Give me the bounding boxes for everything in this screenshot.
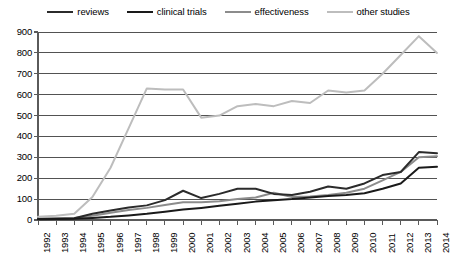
x-tick-label: 1995 — [96, 233, 106, 253]
x-tick-label: 2005 — [278, 233, 288, 253]
plot-svg — [0, 0, 457, 266]
x-tick-label: 2001 — [205, 233, 215, 253]
y-tick-label: 300 — [2, 152, 32, 162]
x-tick-label: 2009 — [350, 233, 360, 253]
gridlines — [38, 32, 437, 220]
x-tick-label: 1997 — [133, 233, 143, 253]
y-tick-label: 0 — [2, 215, 32, 225]
x-tick-label: 1993 — [60, 233, 70, 253]
x-tick-label: 1998 — [151, 233, 161, 253]
series-line-clinical-trials — [38, 167, 437, 219]
x-tick-label: 2008 — [332, 233, 342, 253]
y-tick-label: 600 — [2, 90, 32, 100]
y-tick-label: 200 — [2, 173, 32, 183]
x-tick-label: 2004 — [260, 233, 270, 253]
x-tick-label: 2007 — [314, 233, 324, 253]
x-tick-label: 2002 — [223, 233, 233, 253]
x-tick-label: 2012 — [405, 233, 415, 253]
x-tick-label: 1996 — [115, 233, 125, 253]
y-tick-label: 400 — [2, 131, 32, 141]
x-tick-label: 2011 — [387, 233, 397, 253]
y-tick-label: 900 — [2, 27, 32, 37]
line-chart: reviewsclinical trialseffectivenessother… — [0, 0, 457, 266]
series-line-reviews — [38, 152, 437, 219]
y-tick-label: 500 — [2, 111, 32, 121]
x-tick-label: 2006 — [296, 233, 306, 253]
y-tick-label: 800 — [2, 48, 32, 58]
x-tick-label: 1999 — [169, 233, 179, 253]
x-tick-label: 2003 — [242, 233, 252, 253]
y-tick-label: 100 — [2, 194, 32, 204]
x-tick-label: 2013 — [423, 233, 433, 253]
series-lines — [38, 36, 437, 219]
x-tick-label: 1992 — [42, 233, 52, 253]
x-tick-label: 2000 — [187, 233, 197, 253]
x-tick-label: 2010 — [368, 233, 378, 253]
x-tick-label: 2014 — [441, 233, 451, 253]
y-tick-label: 700 — [2, 69, 32, 79]
x-tick-label: 1994 — [78, 233, 88, 253]
x-tick-marks — [38, 220, 437, 225]
plot-area: 9008007006005004003002001000 19921993199… — [0, 0, 457, 266]
